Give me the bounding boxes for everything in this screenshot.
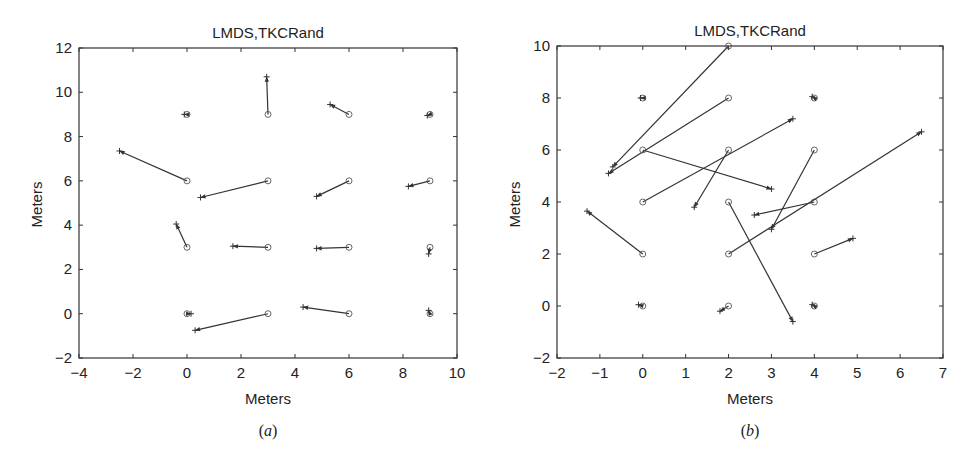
x-tick-label: 5 (853, 364, 861, 381)
error-vector (768, 147, 817, 232)
y-tick-label: 4 (542, 193, 550, 210)
error-vector (717, 303, 732, 314)
error-vector (809, 302, 817, 309)
vector-line (643, 119, 793, 202)
x-tick-label: −2 (548, 364, 565, 381)
y-tick-label: 8 (542, 89, 550, 106)
error-vector (809, 94, 817, 101)
x-tick-label: 6 (896, 364, 904, 381)
vector-line (694, 150, 728, 207)
x-axis-label-b: Meters (557, 390, 943, 407)
x-tick-label: 3 (767, 364, 775, 381)
error-vector (605, 95, 731, 176)
x-tick-label: −1 (591, 364, 608, 381)
x-tick-label: 7 (939, 364, 947, 381)
x-tick-label: 1 (681, 364, 689, 381)
error-vector (726, 129, 925, 257)
vector-line (643, 150, 772, 189)
vector-line (754, 202, 814, 215)
error-vector (638, 95, 646, 101)
axes-frame (557, 46, 943, 358)
vector-line (729, 132, 922, 254)
vector-line (814, 238, 853, 254)
y-tick-label: 2 (542, 245, 550, 262)
error-vector (811, 235, 856, 257)
y-tick-label: 10 (533, 37, 550, 54)
caption-letter-b: b (746, 422, 754, 439)
x-tick-label: 4 (810, 364, 818, 381)
vector-line (587, 211, 643, 254)
vector-line (771, 150, 814, 229)
error-vector (640, 116, 796, 205)
error-vector (751, 199, 817, 218)
error-vector (635, 302, 645, 309)
caption-b: (b) (557, 422, 943, 440)
y-tick-label: 6 (542, 141, 550, 158)
y-axis-label-b: Meters (506, 175, 523, 235)
y-tick-label: −2 (533, 349, 550, 366)
y-tick-label: 0 (542, 297, 550, 314)
error-vector (584, 208, 646, 257)
x-tick-label: 2 (724, 364, 732, 381)
error-vector (610, 43, 732, 170)
x-tick-label: 0 (639, 364, 647, 381)
vector-line (613, 46, 729, 167)
